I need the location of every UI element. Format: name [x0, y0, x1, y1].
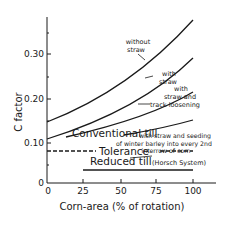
- annotations: without straw with straw with straw and …: [126, 38, 200, 109]
- c-factor-chart: 0.30 0.20 0.10 0 0 25 50 75 100 Corn-are…: [0, 0, 228, 225]
- x-tick-25: 25: [77, 186, 88, 196]
- y-tick-010: 0.10: [24, 138, 44, 148]
- x-tick-labels: 0 25 50 75 100: [45, 186, 202, 196]
- x-axis-title: Corn-area (% of rotation): [60, 201, 185, 212]
- label-track-1: with: [174, 85, 188, 93]
- label-track-3: track loosening: [150, 101, 200, 109]
- label-without-straw-1: without: [126, 38, 151, 46]
- label-barley-1b: with straw and seeding: [139, 132, 211, 140]
- y-axis-title: C factor: [13, 91, 24, 131]
- label-reduced-till: Reduced till: [90, 155, 152, 167]
- x-tick-50: 50: [115, 186, 127, 196]
- x-tick-75: 75: [150, 186, 161, 196]
- y-tick-0: 0: [38, 178, 44, 188]
- y-tick-labels: 0.30 0.20 0.10 0: [24, 49, 44, 188]
- x-tick-100: 100: [184, 186, 201, 196]
- label-without-straw-2: straw: [127, 46, 146, 54]
- label-with-straw-1: with: [162, 70, 176, 78]
- y-tick-030: 0.30: [24, 49, 44, 59]
- y-tick-020: 0.20: [24, 94, 44, 104]
- label-horsch-system: (Horsch System): [152, 159, 206, 167]
- label-track-2: straw and: [164, 93, 196, 101]
- x-tick-0: 0: [45, 186, 51, 196]
- label-barley-3: interrow of corn: [141, 147, 190, 154]
